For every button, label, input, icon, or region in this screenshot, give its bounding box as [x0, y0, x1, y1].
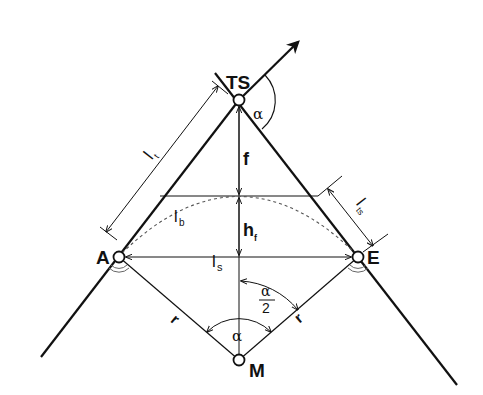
- tangent-lines: [41, 42, 457, 385]
- label-lt: l t: [140, 145, 161, 164]
- lts-dimension: [318, 176, 388, 252]
- label-lb: l b: [174, 208, 185, 228]
- svg-text:α: α: [261, 283, 271, 299]
- label-r-left: r: [168, 311, 184, 328]
- right-angle-marker-A: [109, 265, 129, 272]
- label-deflection-angle: α: [253, 105, 263, 123]
- svg-text:h: h: [243, 220, 254, 240]
- label-r-right: r: [291, 309, 307, 326]
- label-E: E: [367, 247, 380, 268]
- tangent-left: [41, 100, 239, 357]
- point-M-marker: [234, 355, 245, 366]
- label-f: f: [243, 149, 250, 169]
- svg-text:f: f: [254, 233, 258, 243]
- point-E-marker: [353, 252, 364, 263]
- svg-text:l: l: [212, 252, 216, 271]
- svg-text:s: s: [217, 261, 223, 273]
- label-hf: h f: [243, 220, 258, 243]
- label-TS: TS: [226, 72, 250, 93]
- label-ls: l s: [212, 252, 223, 273]
- lt-dimension: [100, 81, 228, 240]
- label-M: M: [249, 360, 265, 381]
- svg-text:l: l: [174, 208, 178, 225]
- label-central-angle: α: [232, 327, 242, 345]
- label-lts: l ts: [351, 195, 374, 217]
- curve-geometry-diagram: TS A E M l t l b l s l ts f h f r r α α …: [0, 0, 483, 395]
- label-A: A: [96, 247, 110, 268]
- svg-text:b: b: [179, 217, 185, 228]
- label-half-angle: α 2: [259, 283, 275, 316]
- radius-right-line: [239, 257, 358, 360]
- point-A-marker: [114, 252, 125, 263]
- point-TS-marker: [234, 95, 245, 106]
- right-angle-marker-E: [348, 265, 368, 272]
- svg-text:2: 2: [262, 300, 270, 316]
- deflection-angle-arc: [262, 75, 275, 129]
